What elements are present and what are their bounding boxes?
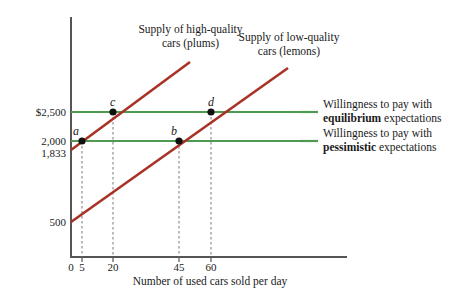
legend-pessimistic-rest: expectations [376, 141, 436, 153]
x-tick-label-20: 20 [102, 261, 124, 274]
point-label-b: b [171, 124, 177, 138]
point-marker-a [78, 137, 85, 144]
point-label-c: c [110, 95, 115, 109]
y-tick-label-500: 500 [4, 216, 66, 229]
point-label-a: a [73, 124, 79, 138]
legend-pessimistic-line-1: Willingness to pay with [323, 127, 432, 139]
point-marker-b [175, 137, 182, 144]
legend-equilibrium-line-1: Willingness to pay with [323, 98, 432, 110]
point-marker-d [207, 108, 214, 115]
y-tick-label-2500: $2,500 [4, 106, 66, 119]
x-axis-title: Number of used cars sold per day [71, 275, 349, 287]
supply-curve-lemons-label: Supply of low-quality cars (lemons) [228, 30, 350, 58]
y-tick-label-1833: 1,833 [4, 147, 66, 160]
x-tick-label-5: 5 [73, 261, 91, 274]
legend-equilibrium-rest: expectations [381, 112, 441, 124]
point-marker-c [109, 108, 116, 115]
legend-equilibrium-bold: equilibrium [323, 112, 381, 124]
x-tick-label-45: 45 [168, 261, 190, 274]
legend-pessimistic-bold: pessimistic [323, 141, 376, 153]
plums-label-line-2: cars (plums) [162, 37, 219, 49]
legend-item-pessimistic: Willingness to pay with pessimistic expe… [323, 126, 457, 155]
supply-curve-lemons [71, 68, 288, 222]
x-tick-label-60: 60 [200, 261, 222, 274]
legend-item-equilibrium: Willingness to pay with equilibrium expe… [323, 97, 457, 126]
point-label-d: d [208, 95, 214, 109]
lemons-label-line-2: cars (lemons) [258, 45, 320, 57]
plums-label-line-1: Supply of high-quality [138, 23, 242, 35]
lemons-label-line-1: Supply of low-quality [239, 31, 340, 43]
chart-figure: Price per car $2,500 2,000 1,833 500 0 5… [0, 0, 459, 297]
